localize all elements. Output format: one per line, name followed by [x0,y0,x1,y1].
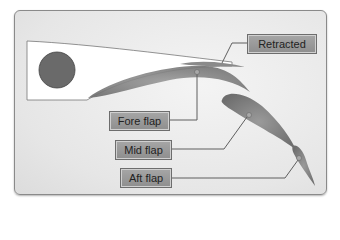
fore-flap-label: Fore flap [109,111,170,131]
spar-icon [39,52,75,88]
mid-flap-label: Mid flap [115,140,172,160]
retracted-label: Retracted [247,34,317,54]
retracted-leader [222,43,247,63]
mid-flap-leader [170,117,247,149]
aft-flap-label: Aft flap [120,168,172,188]
aft-flap-leader [170,160,298,178]
mid-flap [222,94,296,150]
aft-flap [292,146,315,186]
